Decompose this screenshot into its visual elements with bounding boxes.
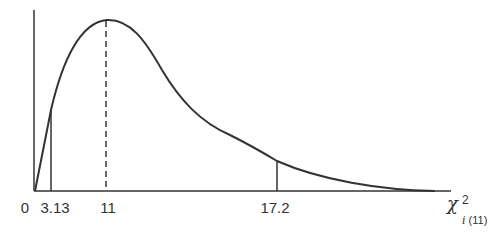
x-axis-label-superscript: 2 — [462, 193, 469, 207]
tick-label-17.2: 17.2 — [260, 199, 289, 216]
x-axis-label-subscript: i (11) — [462, 214, 487, 227]
subscript-var: i — [462, 214, 466, 227]
x-axis-label-symbol: χ — [447, 193, 458, 214]
tick-label-3.13: 3.13 — [40, 199, 69, 216]
tick-label-11: 11 — [100, 199, 116, 216]
chi-square-plot — [0, 0, 489, 247]
density-curve — [35, 20, 435, 191]
tick-label-0: 0 — [21, 199, 29, 216]
subscript-df: (11) — [469, 214, 488, 226]
